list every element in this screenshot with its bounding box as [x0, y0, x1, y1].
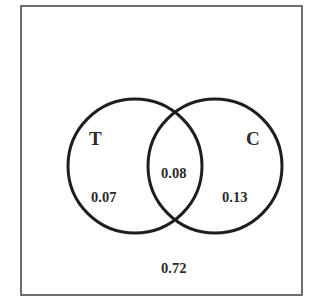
outside-value: 0.72 — [161, 260, 186, 276]
c-only-value: 0.13 — [222, 189, 247, 205]
t-only-value: 0.07 — [91, 189, 116, 205]
set-t-label: T — [89, 128, 102, 149]
intersection-value: 0.08 — [161, 165, 186, 181]
set-c-label: C — [246, 128, 260, 149]
venn-diagram: T C 0.07 0.08 0.13 0.72 — [0, 0, 317, 302]
universe-frame — [21, 6, 302, 295]
